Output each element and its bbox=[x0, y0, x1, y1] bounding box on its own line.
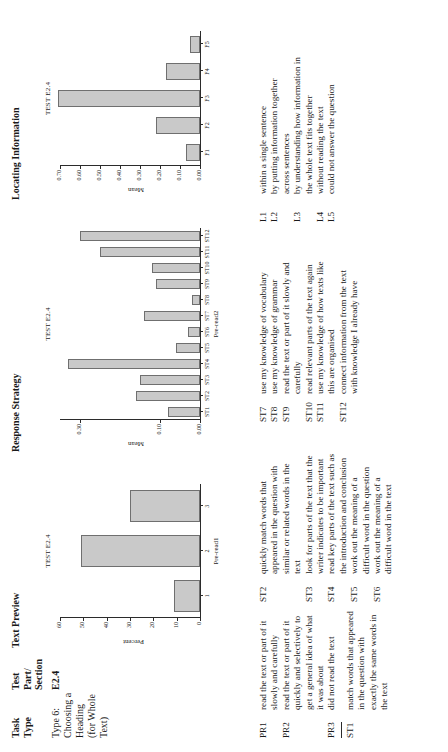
legend-item: L1within a single sentence bbox=[258, 57, 269, 222]
x-axis-tick bbox=[200, 550, 203, 551]
header-response-strategy: Response Strategy bbox=[10, 322, 22, 452]
x-axis-tick-label: 3 bbox=[204, 484, 210, 529]
legend-item-code: PR3 bbox=[326, 712, 337, 738]
y-axis-tick-label: 0.20 bbox=[156, 170, 162, 198]
x-axis-tick bbox=[200, 283, 203, 284]
x-axis-line bbox=[200, 484, 201, 618]
x-axis-tick-label: ST1 bbox=[204, 404, 210, 420]
legend-column-l: L1within a single sentenceL2by putting i… bbox=[258, 57, 338, 222]
x-axis-tick-label: F2 bbox=[204, 112, 210, 139]
x-axis-tick bbox=[200, 71, 203, 72]
cell-test-part-section: E2.4 bbox=[50, 650, 62, 690]
legend-item-text: by understanding how information in the … bbox=[292, 57, 315, 194]
legend-item-code: ST5 bbox=[349, 576, 360, 602]
x-axis-tick-label: ST5 bbox=[204, 340, 210, 356]
legend-item-code: ST12 bbox=[338, 396, 349, 422]
legend-item: L3by understanding how information in th… bbox=[292, 57, 315, 222]
legend-item-code: ST11 bbox=[315, 396, 326, 422]
x-axis-tick bbox=[200, 125, 203, 126]
legend-item-text: did not read the text bbox=[326, 610, 337, 710]
legend-item-text: by putting information together across s… bbox=[269, 57, 292, 194]
bar bbox=[174, 580, 200, 612]
y-axis-tick bbox=[177, 618, 178, 621]
header-locating-information: Locating Information bbox=[10, 60, 22, 200]
legend-item: ST9read the text or part of it slowly an… bbox=[281, 252, 304, 422]
legend-item-code: ST10 bbox=[304, 396, 315, 422]
legend-item-code: ST1 bbox=[345, 712, 356, 738]
x-axis-tick bbox=[200, 98, 203, 99]
chart-title: TEST E2.4 bbox=[44, 228, 52, 420]
y-axis-tick bbox=[200, 618, 201, 621]
y-axis-tick-label: 50 bbox=[79, 622, 85, 650]
x-axis-tick bbox=[200, 299, 203, 300]
x-axis-tick bbox=[200, 363, 203, 364]
header-task-type: Task Type bbox=[10, 694, 33, 738]
x-axis-tick bbox=[200, 152, 203, 153]
x-axis-tick-label: ST2 bbox=[204, 388, 210, 404]
x-axis-tick bbox=[200, 411, 203, 412]
bar bbox=[130, 490, 200, 522]
y-axis-tick bbox=[160, 420, 161, 423]
header-test-part-section: Test Part/ Section bbox=[10, 648, 45, 690]
bar bbox=[58, 90, 200, 106]
legend-item-code: ST2 bbox=[258, 576, 269, 602]
legend-item-text: look for parts of the text that the writ… bbox=[304, 452, 327, 574]
legend-item-text: read the text or part of it slowly and c… bbox=[258, 610, 281, 710]
legend-item-text: quickly match words that appeared in the… bbox=[258, 452, 304, 574]
legend-column-pr: PR1read the text or part of it slowly an… bbox=[258, 610, 390, 738]
x-axis-tick-label: ST8 bbox=[204, 292, 210, 308]
x-axis-tick-label: F3 bbox=[204, 85, 210, 112]
bar bbox=[176, 343, 200, 353]
x-axis-tick-label: ST7 bbox=[204, 308, 210, 324]
legend-item: ST12connect information from the text wi… bbox=[338, 252, 361, 422]
legend-item: ST6work out the meaning of a difficult w… bbox=[372, 452, 395, 602]
legend-item: L4without reading the text bbox=[315, 57, 326, 222]
x-axis-tick bbox=[200, 251, 203, 252]
x-axis-tick-label: F4 bbox=[204, 58, 210, 85]
x-axis-tick-label: F5 bbox=[204, 31, 210, 58]
chart-locating-information: TEST E2.40.000.100.200.300.400.500.600.7… bbox=[42, 25, 222, 200]
y-axis-tick bbox=[80, 420, 81, 423]
bar bbox=[152, 263, 200, 273]
bar bbox=[156, 117, 200, 133]
x-axis-tick-label: F1 bbox=[204, 139, 210, 166]
legend-item-code: L2 bbox=[269, 196, 280, 222]
legend-item: ST5work out the meaning of a difficult w… bbox=[349, 452, 372, 602]
legend-item-text: work out the meaning of a difficult word… bbox=[372, 452, 395, 574]
legend-item-code: PR1 bbox=[258, 712, 269, 738]
x-axis-label: Pre-read1 bbox=[212, 484, 220, 618]
page-frame: Task Type Test Part/ Section Text Previe… bbox=[0, 0, 448, 752]
legend-item-text: work out the meaning of a difficult word… bbox=[349, 452, 372, 574]
y-axis-line bbox=[60, 165, 200, 166]
y-axis-label: Mean bbox=[128, 186, 144, 194]
y-axis-tick bbox=[83, 618, 84, 621]
document-sheet: Task Type Test Part/ Section Text Previe… bbox=[0, 0, 448, 752]
chart-response-strategy: TEST E2.40.000.100.30MeanST1ST2ST3ST4ST5… bbox=[42, 222, 222, 452]
y-axis-tick-label: 10 bbox=[173, 622, 179, 650]
bar bbox=[186, 144, 200, 160]
legend-item: ST1match words that appeared in the ques… bbox=[345, 610, 391, 738]
legend-item-text: use my knowledge of vocabulary bbox=[258, 252, 269, 394]
x-axis-tick-label: ST12 bbox=[204, 228, 210, 244]
legend-item-text: connect information from the text with k… bbox=[338, 252, 361, 394]
y-axis-tick bbox=[130, 618, 131, 621]
y-axis-tick-label: 0.60 bbox=[76, 170, 82, 198]
y-axis-tick-label: 40 bbox=[103, 622, 109, 650]
y-axis-tick-label: 60 bbox=[56, 622, 62, 650]
chart-title: TEST E2.4 bbox=[44, 484, 52, 618]
bar bbox=[192, 295, 200, 305]
y-axis-tick-label: 0.10 bbox=[156, 424, 162, 452]
legend-item-code: L4 bbox=[315, 196, 326, 222]
legend-item: L5could not answer the question bbox=[326, 57, 337, 222]
y-axis-tick bbox=[100, 166, 101, 169]
y-axis-tick bbox=[153, 618, 154, 621]
legend-item-code: L5 bbox=[326, 196, 337, 222]
legend-item-code: ST3 bbox=[304, 576, 315, 602]
legend-item-text: read the text or part of it quickly and … bbox=[281, 610, 327, 710]
legend-column-st2: ST7use my knowledge of vocabularyST8use … bbox=[258, 252, 361, 422]
chart-text-preview: TEST E2.40102030405060Percent123Pre-read… bbox=[42, 478, 222, 648]
legend-item-text: use my knowledge of how texts like this … bbox=[315, 252, 338, 394]
x-axis-tick-label: ST11 bbox=[204, 244, 210, 260]
legend-item: PR2read the text or part of it quickly a… bbox=[281, 610, 327, 738]
y-axis-tick bbox=[107, 618, 108, 621]
